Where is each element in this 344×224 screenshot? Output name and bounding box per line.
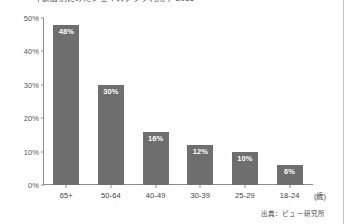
x-tick-mark	[155, 185, 156, 188]
bar-group-65-plus: 48% 65+	[44, 18, 89, 185]
bar-65-plus[interactable]: 48%	[53, 25, 79, 185]
source-note: 出典：ピュー研究所	[261, 208, 325, 218]
bar-value-40-49: 16%	[143, 134, 169, 143]
x-tick-label-25-29: 25-29	[223, 191, 268, 200]
plot-area: 50% 40% 30% 20% 10% 0% 48% 65+ 30% 50-64	[44, 18, 312, 185]
x-tick-mark	[110, 185, 111, 188]
x-tick-label-40-49: 40-49	[133, 191, 178, 200]
y-tick-label-30: 30%	[24, 80, 39, 89]
chart-title: 年齢層別にみたフェイスブック利用率 2015	[34, 0, 314, 4]
bar-40-49[interactable]: 16%	[143, 132, 169, 185]
bar-group-18-24: 6% 18-24	[267, 18, 312, 185]
bar-25-29[interactable]: 10%	[232, 152, 258, 185]
bar-50-64[interactable]: 30%	[98, 85, 124, 185]
x-tick-label-18-24: 18-24	[267, 191, 312, 200]
bar-group-30-39: 12% 30-39	[178, 18, 223, 185]
y-tick-label-50: 50%	[24, 14, 39, 23]
x-tick-mark	[244, 185, 245, 188]
y-tick-label-40: 40%	[24, 47, 39, 56]
bar-group-50-64: 30% 50-64	[89, 18, 134, 185]
chart-title-container: 年齢層別にみたフェイスブック利用率 2015	[0, 0, 344, 9]
bar-18-24[interactable]: 6%	[277, 165, 303, 185]
y-tick-label-10: 10%	[24, 147, 39, 156]
bar-value-50-64: 30%	[98, 87, 124, 96]
x-tick-mark	[66, 185, 67, 188]
y-tick-label-0: 0%	[28, 181, 39, 190]
x-axis-unit-label: (歳)	[314, 190, 326, 201]
y-tick-label-20: 20%	[24, 114, 39, 123]
bar-30-39[interactable]: 12%	[187, 145, 213, 185]
x-tick-label-50-64: 50-64	[89, 191, 134, 200]
bar-value-30-39: 12%	[187, 147, 213, 156]
x-tick-mark	[289, 185, 290, 188]
bar-group-40-49: 16% 40-49	[133, 18, 178, 185]
x-tick-label-65-plus: 65+	[44, 191, 89, 200]
bar-value-18-24: 6%	[277, 167, 303, 176]
bar-chart-figure: 年齢層別にみたフェイスブック利用率 2015 50% 40% 30% 20% 1…	[0, 0, 344, 224]
bar-value-65-plus: 48%	[53, 27, 79, 36]
x-tick-mark	[200, 185, 201, 188]
bar-value-25-29: 10%	[232, 154, 258, 163]
x-tick-label-30-39: 30-39	[178, 191, 223, 200]
bar-group-25-29: 10% 25-29	[223, 18, 268, 185]
